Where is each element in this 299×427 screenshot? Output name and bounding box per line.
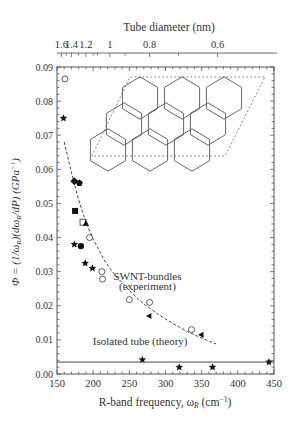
x-tick-label: 400 (230, 378, 246, 389)
x-tick-label: 200 (85, 378, 101, 389)
data-point-circle-open (126, 297, 132, 303)
top-tick-label: 1.2 (79, 39, 92, 50)
data-point-triangle-left (198, 332, 203, 338)
data-point-star (89, 264, 97, 271)
x-tick-label: 250 (121, 378, 137, 389)
top-axis-label: Tube diameter (nm) (123, 21, 215, 34)
annotations: SWNT-bundles(experiment)Isolated tube (t… (93, 270, 188, 348)
y-axis-label: Φ = (1/ωR)(dωR/dP) (GPa−1) (9, 158, 23, 286)
top-axis-ticks: 1.61.41.210.80.6 (55, 39, 224, 57)
annotation-label: (experiment) (119, 280, 176, 293)
plot-frame (57, 67, 274, 374)
data-point-star (81, 259, 89, 266)
top-tick-label: 0.6 (211, 39, 224, 50)
data-point-star (60, 114, 68, 121)
y-tick-label: 0.02 (36, 300, 54, 311)
annotation-label: Isolated tube (theory) (93, 335, 188, 348)
data-point-square-filled (72, 208, 78, 214)
data-point-circle-open (147, 299, 153, 305)
data-point-star (175, 363, 183, 370)
y-tick-label: 0.08 (36, 96, 54, 107)
y-tick-label: 0.06 (36, 164, 54, 175)
y-tick-label: 0.03 (36, 266, 54, 277)
bundle-inset-diagram (90, 77, 265, 171)
x-tick-label: 300 (158, 378, 174, 389)
chart: Tube diameter (nm) 1.61.41.210.80.6 0.00… (0, 0, 299, 427)
x-tick-label: 450 (266, 378, 282, 389)
x-tick-labels: 150200250300350400450 (49, 378, 282, 389)
data-point-star (209, 363, 217, 370)
data-point-circle-open (62, 76, 68, 82)
data-point-circle-open (100, 276, 106, 282)
data-point-circle-open (189, 327, 195, 333)
data-point-star (71, 240, 79, 247)
y-tick-label: 0.07 (36, 130, 54, 141)
frame-ticks (57, 67, 274, 374)
y-tick-label: 0.01 (36, 334, 54, 345)
data-point-circle-open (99, 269, 105, 275)
top-tick-label: 1 (107, 39, 112, 50)
x-tick-label: 150 (49, 378, 65, 389)
data-series (57, 76, 274, 370)
y-tick-label: 0.09 (36, 62, 54, 73)
x-axis-label: R-band frequency, ωR (cm−1) (99, 395, 232, 410)
fit-curve (64, 142, 216, 344)
x-tick-label: 350 (194, 378, 210, 389)
y-tick-label: 0.04 (36, 232, 54, 243)
y-tick-labels: 0.000.010.020.030.040.050.060.070.080.09 (36, 62, 54, 380)
top-tick-label: 1.4 (65, 39, 79, 50)
data-point-triangle-left (146, 313, 151, 319)
data-point-circle-filled (78, 243, 84, 249)
y-tick-label: 0.05 (36, 198, 54, 209)
top-tick-label: 0.8 (143, 39, 156, 50)
